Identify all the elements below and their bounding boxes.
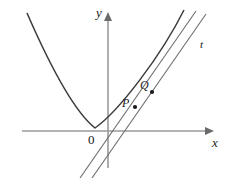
point-p-label: P [122,97,129,109]
math-figure: y x 0 P Q t [0,0,226,178]
point-q-label: Q [140,79,149,91]
tangent-line [92,14,206,178]
up-arrow-icon [104,12,112,21]
y-axis-label: y [96,6,102,19]
figure-canvas [0,0,226,178]
right-arrow-icon [205,127,214,135]
parabola-curve [27,10,184,128]
point-q-dot [150,90,154,94]
y-axis [104,12,112,168]
x-axis [22,127,214,135]
tangent-line-label: t [200,39,203,50]
origin-label: 0 [88,133,95,146]
x-axis-label: x [212,136,218,149]
secant-line [80,11,196,178]
point-p-dot [133,105,137,109]
